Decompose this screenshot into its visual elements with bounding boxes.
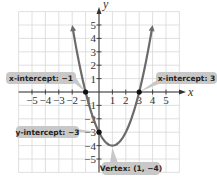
y-tick-label: −5 [84,153,96,165]
callout-x-intercept-right: x-intercept: 3 [139,72,217,92]
callout-label: x-intercept: −1 [9,74,73,83]
y-tick-label: 5 [91,19,97,31]
x-tick-label: −4 [40,94,52,106]
callouts: x-intercept: −1x-intercept: 3y-intercept… [6,72,217,175]
callout-pointer [110,148,118,163]
x-intercept-point [137,89,142,94]
graph: xy −5−4−3−2−11234554321−1−2−3−4−5 x-inte… [0,0,217,181]
x-tick-label: 2 [123,94,129,106]
y-axis-arrow-icon [97,7,102,14]
axes: xy [19,0,194,172]
y-tick-label: −3 [84,126,96,138]
y-tick-label: 1 [91,73,97,85]
x-tick-label: 4 [150,94,156,106]
x-tick-label: −3 [53,94,65,106]
x-tick-label: 5 [163,94,169,106]
y-tick-label: 3 [91,46,97,58]
x-tick-label: 1 [110,94,116,106]
x-axis-arrow-icon [179,90,186,95]
x-tick-label: −5 [26,94,38,106]
y-tick-label: 2 [91,59,97,71]
curve-arrow-icon [70,25,76,31]
x-axis-label: x [187,85,194,99]
x-tick-label: −2 [66,94,78,106]
y-tick-label: −4 [84,140,96,152]
y-intercept-point [96,130,101,135]
curve-arrow-icon [149,25,155,31]
y-axis-label: y [102,0,109,11]
callout-label: x-intercept: 3 [158,74,216,83]
callout-label: y-intercept: −3 [16,128,80,137]
y-tick-label: 4 [91,32,97,44]
callout-label: Vertex: (1, −4) [100,164,162,173]
x-intercept-point [83,89,88,94]
